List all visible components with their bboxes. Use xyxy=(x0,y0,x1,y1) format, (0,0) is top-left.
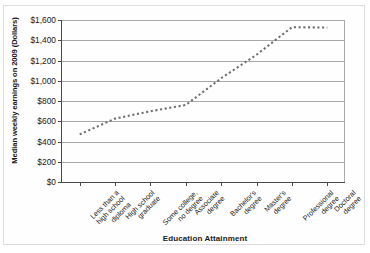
y-tick-label: $1,400 xyxy=(30,35,56,45)
y-tick-label: $600 xyxy=(37,116,56,126)
series-polyline xyxy=(80,27,328,134)
x-tick-mark xyxy=(327,182,328,186)
x-axis-title: Education Attainment xyxy=(60,234,350,243)
y-tick-label: $1,200 xyxy=(30,56,56,66)
x-axis-line xyxy=(61,182,345,183)
y-tick-label: $200 xyxy=(37,157,56,167)
y-axis-title: Median weekly earnings on 2009 (Dollars) xyxy=(10,1,19,181)
y-tick-label: $800 xyxy=(37,96,56,106)
chart-figure: Median weekly earnings on 2009 (Dollars)… xyxy=(0,0,370,253)
x-tick-mark xyxy=(150,182,151,186)
y-tick-label: $1,600 xyxy=(30,15,56,25)
plot-area: $0$200$400$600$800$1,000$1,200$1,400$1,6… xyxy=(62,20,345,182)
x-tick-mark xyxy=(257,182,258,186)
y-tick-label: $400 xyxy=(37,137,56,147)
x-tick-mark xyxy=(221,182,222,186)
x-tick-mark xyxy=(292,182,293,186)
x-tick-mark xyxy=(115,182,116,186)
y-tick-mark xyxy=(58,182,62,183)
y-tick-label: $0 xyxy=(47,177,56,187)
y-tick-label: $1,000 xyxy=(30,76,56,86)
x-tick-mark xyxy=(186,182,187,186)
x-tick-mark xyxy=(80,182,81,186)
data-series-line xyxy=(62,20,345,182)
